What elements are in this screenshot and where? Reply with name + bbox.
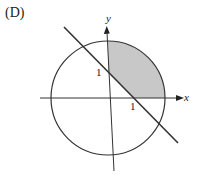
y-axis-arrow-icon (104, 26, 110, 34)
x-axis-arrow-icon (176, 95, 184, 101)
y-axis-label: y (106, 13, 111, 24)
y-intercept-label: 1 (96, 67, 102, 78)
x-axis-label: x (184, 92, 189, 103)
shaded-region (108, 30, 170, 98)
diagram-canvas (0, 0, 200, 182)
x-intercept-label: 1 (130, 101, 136, 112)
